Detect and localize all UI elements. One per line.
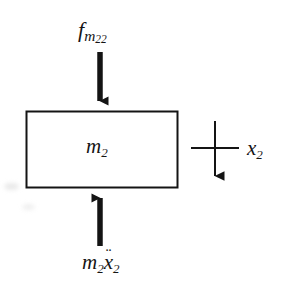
diagram-canvas bbox=[0, 0, 286, 291]
force-label-bottom: m2¨x2 bbox=[82, 252, 120, 273]
coordinate-symbol: x bbox=[247, 136, 256, 160]
coordinate-label: x2 bbox=[247, 138, 263, 159]
double-dot-accent-icon: ¨ bbox=[106, 247, 111, 264]
force-top-subscript: m bbox=[84, 27, 95, 44]
mass-label: m2 bbox=[86, 136, 108, 157]
force-label-top: fm22 bbox=[78, 19, 107, 41]
mass-symbol: m bbox=[86, 134, 101, 158]
free-body-diagram-figure: fm22 m2 m2¨x2 x2 bbox=[0, 0, 286, 291]
acceleration-symbol-group: ¨x bbox=[104, 252, 113, 273]
force-bottom-mass-symbol: m bbox=[82, 250, 97, 274]
mass-subscript: 2 bbox=[101, 145, 108, 160]
acceleration-subscript: 2 bbox=[113, 261, 120, 276]
coordinate-subscript: 2 bbox=[256, 147, 263, 162]
force-top-sub-subscript: 22 bbox=[95, 33, 106, 45]
